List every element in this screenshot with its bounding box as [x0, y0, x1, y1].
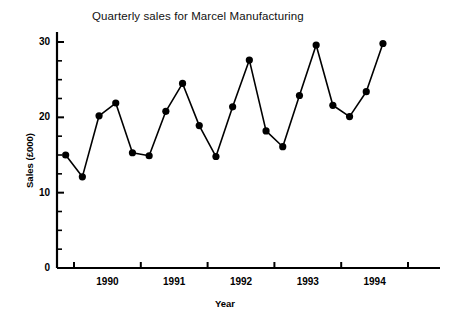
data-point: [313, 41, 320, 48]
data-point: [162, 108, 169, 115]
data-point: [279, 143, 286, 150]
data-point: [246, 56, 253, 63]
data-point: [329, 102, 336, 109]
data-point: [296, 92, 303, 99]
plot-area: [0, 0, 453, 324]
data-point: [346, 113, 353, 120]
data-point: [79, 173, 86, 180]
axes: [57, 32, 440, 268]
data-point: [62, 151, 69, 158]
data-point: [179, 80, 186, 87]
data-point: [363, 88, 370, 95]
data-point: [129, 149, 136, 156]
data-point: [146, 152, 153, 159]
data-series: [62, 40, 387, 181]
data-point: [196, 122, 203, 129]
data-point: [95, 112, 102, 119]
line-chart: Quarterly sales for Marcel Manufacturing…: [0, 0, 453, 324]
data-point: [379, 40, 386, 47]
data-point: [112, 99, 119, 106]
data-point: [262, 127, 269, 134]
data-point: [212, 153, 219, 160]
data-point: [229, 103, 236, 110]
